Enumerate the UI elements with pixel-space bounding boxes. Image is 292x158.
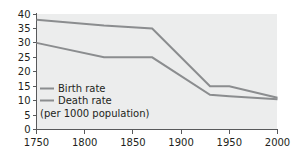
y-tick-label: 20 [18,66,31,77]
y-tick-label: 0 [24,124,30,135]
legend-label-birth-rate: Birth rate [58,83,106,94]
x-tick-label: 1900 [168,137,193,148]
legend-units-note: (per 1000 population) [40,108,150,119]
x-tick-label: 1850 [120,137,145,148]
x-axis-tick-labels: 175018001850190019502000 [24,137,290,148]
x-tick-label: 2000 [265,137,290,148]
y-tick-label: 30 [18,37,31,48]
chart-canvas: 0510152025303540 17501800185019001950200… [0,0,292,158]
x-tick-label: 1950 [217,137,242,148]
x-axis-tick-marks [37,130,278,135]
line-chart-birth-death-rate: 0510152025303540 17501800185019001950200… [0,0,292,158]
x-tick-label: 1750 [24,137,49,148]
y-tick-label: 35 [18,23,31,34]
y-tick-label: 25 [18,52,31,63]
x-tick-label: 1800 [72,137,97,148]
y-tick-label: 5 [24,110,30,121]
y-tick-label: 15 [18,81,31,92]
y-axis-tick-labels: 0510152025303540 [18,9,31,136]
y-tick-label: 10 [18,95,31,106]
y-tick-label: 40 [18,9,31,20]
legend-label-death-rate: Death rate [58,95,112,106]
